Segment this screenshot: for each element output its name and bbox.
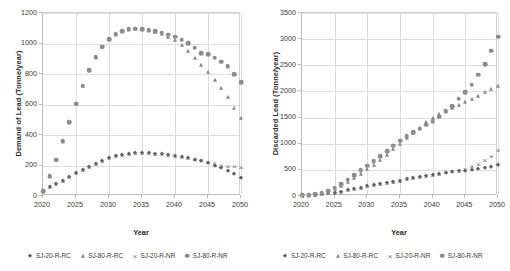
gridline-horizontal [302,91,496,92]
data-point [313,192,318,197]
legend-item-sj80rrc[interactable]: SJ-80-R-RC [80,252,123,259]
data-point [120,152,125,157]
y-axis-tick-label: 500 [255,164,296,173]
data-point [61,139,65,143]
data-point [306,193,311,198]
x-axis-tick-label: 2040 [158,200,190,209]
data-point [60,178,65,183]
legend-discarded: SJ-20-R-RCSJ-80-R-RCSJ-20-R-NRSJ-80-R-NR [255,252,510,259]
data-point [120,29,125,34]
data-point [385,181,390,186]
data-point [54,182,59,187]
data-point [404,134,409,139]
gridline-vertical [498,13,499,194]
x-axis-tick-label: 2045 [191,200,223,209]
data-point [358,185,363,190]
data-point [313,192,318,197]
y-tick-mark [298,117,301,118]
cross-marker-icon [387,253,393,259]
data-point [126,152,131,157]
legend-item-sj80rnr[interactable]: SJ-80-R-NR [439,252,482,259]
y-axis-tick-label: 2500 [255,60,296,69]
data-point [319,192,324,197]
data-point [213,78,217,82]
data-point [352,187,357,192]
x-tick-mark [334,195,335,198]
data-point [219,60,224,65]
data-point [345,188,350,193]
data-point [443,109,448,114]
data-point [133,151,138,156]
data-point [385,152,389,156]
data-point [417,175,422,180]
x-axis-tick-label: 2030 [92,200,124,209]
legend-marker [336,253,340,257]
data-point [192,157,197,162]
legend-item-sj80rnr[interactable]: SJ-80-R-NR [184,252,227,259]
gridline-vertical [400,13,401,194]
data-point [186,49,190,53]
legend-marker [133,253,138,258]
data-point [444,109,448,113]
data-point [457,96,462,101]
data-point [120,29,124,33]
legend-label: SJ-20-R-RC [291,252,326,259]
cross-marker-icon [132,253,138,259]
x-axis-tick-label: 2050 [481,200,510,209]
x-axis-tick-label: 2030 [350,200,382,209]
x-tick-mark [464,195,465,198]
data-point [437,112,441,116]
gridline-horizontal [43,135,239,136]
data-point [391,147,395,151]
y-tick-mark [298,38,301,39]
legend-item-sj20rnr[interactable]: SJ-20-R-NR [132,252,175,259]
y-tick-mark [39,43,42,44]
data-point [219,166,224,171]
legend-label: SJ-20-R-NR [396,252,431,259]
data-point [166,153,171,158]
data-point [48,174,52,178]
gridline-horizontal [302,144,496,145]
data-point [404,177,409,182]
data-point [199,63,203,67]
gridline-vertical [367,13,368,194]
gridline-vertical [241,13,242,194]
legend-marker [283,253,288,258]
data-point [100,44,104,48]
legend-label: SJ-80-R-NR [193,252,228,259]
x-tick-mark [75,195,76,198]
y-axis-tick-label: 400 [0,130,37,139]
y-tick-mark [298,64,301,65]
gridline-vertical [76,13,77,194]
legend-item-sj20rrc[interactable]: SJ-20-R-RC [282,252,325,259]
data-point [469,164,474,169]
data-point [404,177,409,182]
data-point [352,187,357,192]
gridline-horizontal [302,13,496,14]
data-point [319,192,324,197]
gridline-vertical [465,13,466,194]
y-axis-tick-label: 1200 [0,8,37,17]
legend-marker [185,253,190,258]
data-point [417,126,422,131]
legend-item-sj20rnr[interactable]: SJ-20-R-NR [387,252,430,259]
triangle-marker-icon [335,253,341,259]
data-point [470,97,474,101]
x-tick-mark [497,195,498,198]
data-point [326,189,330,193]
data-point [417,175,422,180]
data-point [424,174,429,179]
gridline-vertical [433,13,434,194]
legend-item-sj80rrc[interactable]: SJ-80-R-RC [335,252,378,259]
legend-item-sj20rrc[interactable]: SJ-20-R-RC [27,252,70,259]
y-tick-mark [39,73,42,74]
data-point [153,151,158,156]
data-point [113,154,118,159]
data-point [61,139,66,144]
data-point [346,180,350,184]
x-axis-title-left: Year [42,228,240,237]
data-point [489,153,494,158]
data-point [411,176,416,181]
data-point [179,154,184,159]
data-point [313,192,317,196]
